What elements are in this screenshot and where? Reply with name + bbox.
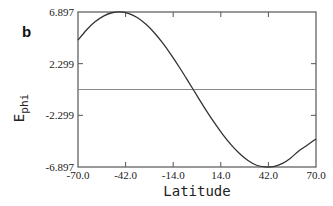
x-axis-title: Latitude	[163, 183, 230, 199]
y-tick-label: -6.897	[46, 161, 75, 173]
x-tick-label: -42.0	[114, 169, 137, 181]
y-axis-title-sub: phi	[18, 94, 31, 114]
svg-text:Ephi: Ephi	[11, 94, 31, 122]
x-tick-label: 14.0	[211, 169, 231, 181]
chart: -70.0-42.0-14.014.042.070.0 -6.897-2.299…	[0, 0, 333, 206]
y-tick-label: 2.299	[49, 58, 74, 70]
y-axis-title-main: E	[11, 114, 27, 122]
y-axis-title: Ephi	[11, 94, 31, 122]
x-tick-label: -14.0	[162, 169, 185, 181]
y-tick-label: 6.897	[49, 6, 74, 18]
x-tick-label: 42.0	[259, 169, 279, 181]
x-axis-ticks: -70.0-42.0-14.014.042.070.0	[67, 12, 327, 181]
panel-label: b	[22, 23, 31, 40]
x-tick-label: 70.0	[306, 169, 326, 181]
y-tick-label: -2.299	[46, 109, 75, 121]
